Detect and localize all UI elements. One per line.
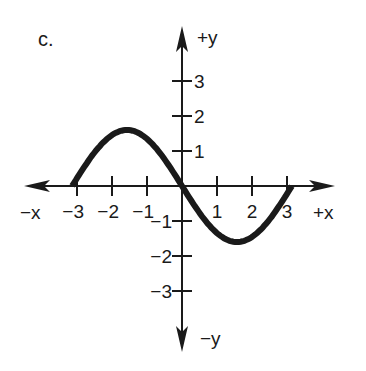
x-tick-label: 2 (247, 201, 258, 222)
x-tick-label: 1 (212, 201, 223, 222)
graph: c. −3−2−1123321−1−2−3 +y −y −x +x (0, 0, 366, 371)
x-tick-label: −2 (97, 201, 119, 222)
y-tick-label: 1 (194, 141, 205, 162)
y-tick-label: −2 (150, 246, 172, 267)
y-tick-label: 2 (194, 106, 205, 127)
y-positive-label: +y (197, 27, 218, 48)
x-negative-label: −x (20, 202, 41, 223)
y-tick-label: −1 (150, 211, 172, 232)
x-positive-label: +x (313, 202, 334, 223)
x-tick-label: −3 (62, 201, 84, 222)
y-tick-label: 3 (194, 71, 205, 92)
y-tick-label: −3 (150, 281, 172, 302)
panel-label: c. (38, 28, 54, 50)
y-negative-label: −y (200, 328, 221, 349)
